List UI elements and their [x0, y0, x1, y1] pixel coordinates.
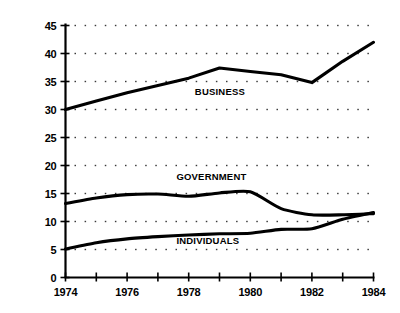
grid-dot [357, 221, 359, 222]
grid-dot [165, 53, 167, 54]
grid-dot [216, 81, 218, 82]
grid-dot [115, 53, 117, 54]
x-tick-label: 1978 [177, 286, 201, 298]
grid-dot [277, 25, 279, 26]
grid-dot [297, 53, 299, 54]
grid-dot [317, 193, 319, 194]
grid-dot [226, 25, 228, 26]
grid-dot [287, 193, 289, 194]
x-tick-label: 1976 [115, 286, 139, 298]
grid-dot [165, 221, 167, 222]
grid-dot [206, 109, 208, 110]
grid-dot [206, 25, 208, 26]
grid-dot [115, 109, 117, 110]
grid-dot [105, 193, 107, 194]
grid-dot [327, 109, 329, 110]
grid-dot [317, 137, 319, 138]
grid-dot [125, 109, 127, 110]
grid-dot [75, 165, 77, 166]
grid-dot [155, 81, 157, 82]
grid-dot [236, 221, 238, 222]
grid-dot [287, 137, 289, 138]
grid-dot [155, 249, 157, 250]
grid-dot [125, 249, 127, 250]
grid-dot [327, 53, 329, 54]
grid-dot [266, 193, 268, 194]
grid-dot [95, 81, 97, 82]
grid-dot [155, 165, 157, 166]
grid-dot [145, 249, 147, 250]
grid-dot [165, 25, 167, 26]
grid-dot [165, 249, 167, 250]
grid-dot [277, 249, 279, 250]
grid-dot [135, 25, 137, 26]
grid-dot [357, 81, 359, 82]
grid-dot [317, 249, 319, 250]
y-tick-label: 40 [45, 48, 57, 60]
grid-dot [266, 109, 268, 110]
grid-dot [266, 81, 268, 82]
y-tick-label: 20 [45, 160, 57, 172]
grid-dot [297, 221, 299, 222]
grid-dot [186, 53, 188, 54]
grid-dot [236, 81, 238, 82]
grid-dot [297, 137, 299, 138]
grid-dot [277, 221, 279, 222]
grid-dot [216, 249, 218, 250]
grid-dot [95, 193, 97, 194]
grid-dot [277, 137, 279, 138]
grid-dot [337, 53, 339, 54]
grid-dot [105, 221, 107, 222]
grid-dot [347, 25, 349, 26]
grid-dot [226, 137, 228, 138]
grid-dot [115, 249, 117, 250]
grid-dot [196, 221, 198, 222]
grid-dot [216, 53, 218, 54]
grid-dot [357, 193, 359, 194]
grid-dot [357, 109, 359, 110]
grid-dot [287, 53, 289, 54]
chart-container: 051015202530354045 197419761978198019821… [0, 0, 400, 313]
grid-dot [246, 25, 248, 26]
series-label-individuals: INDIVIDUALS [176, 235, 239, 246]
grid-dot [206, 249, 208, 250]
y-tick-labels: 051015202530354045 [45, 20, 57, 284]
grid-dot [196, 165, 198, 166]
grid-dot [75, 25, 77, 26]
y-tick-label: 30 [45, 104, 57, 116]
grid-dot [85, 249, 87, 250]
grid-dot [75, 81, 77, 82]
grid-dot [95, 165, 97, 166]
grid-dot [135, 81, 137, 82]
grid-dot [125, 53, 127, 54]
grid-dot [357, 165, 359, 166]
grid-dot [277, 53, 279, 54]
grid-dot [196, 193, 198, 194]
grid-dot [115, 165, 117, 166]
grid-dot [125, 165, 127, 166]
grid-dot [206, 137, 208, 138]
grid-dot [307, 165, 309, 166]
grid-dot [307, 109, 309, 110]
grid-dot [105, 81, 107, 82]
grid-dot [85, 221, 87, 222]
grid-dot [327, 25, 329, 26]
grid-dot [186, 249, 188, 250]
grid-dot [226, 81, 228, 82]
grid-dot [367, 81, 369, 82]
grid-dot [145, 137, 147, 138]
y-tick-label: 45 [45, 20, 57, 32]
grid-dot [85, 81, 87, 82]
grid-dot [216, 221, 218, 222]
grid-dot [165, 137, 167, 138]
grid-dot [266, 137, 268, 138]
grid-dot [246, 137, 248, 138]
grid-dot [145, 221, 147, 222]
grid-dot [135, 53, 137, 54]
grid-dot [135, 137, 137, 138]
grid-dot [85, 165, 87, 166]
grid-dot [357, 137, 359, 138]
grid-dot [226, 109, 228, 110]
grid-dot [327, 165, 329, 166]
grid-dot [226, 249, 228, 250]
